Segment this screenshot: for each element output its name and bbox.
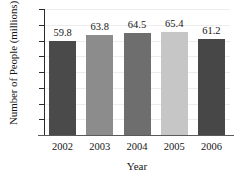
y-axis-tick [39,56,44,57]
y-axis-tick [39,88,44,89]
x-axis-title: Year [44,160,230,172]
y-axis-tick [39,41,44,42]
bar [86,35,113,135]
bar [49,41,76,135]
x-axis-line [38,135,234,136]
bar-chart-figure: Number of People (millions) 807060504030… [0,0,235,179]
bar [198,39,225,135]
y-axis-tick [39,9,44,10]
bar-value-label: 61.2 [188,26,234,37]
gridline [44,9,230,10]
y-axis-tick [39,104,44,105]
x-axis-tick-label: 2006 [188,142,234,153]
y-axis-tick-labels: 8070605040302010 [0,0,38,179]
bar [161,32,188,135]
bar [124,33,151,135]
y-axis-tick [39,72,44,73]
y-axis-tick [39,25,44,26]
y-axis-tick [39,119,44,120]
